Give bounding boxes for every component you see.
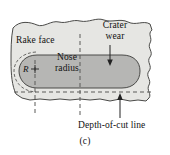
- crater-wear-figure: Rake face Craterwear Noseradius R Depth-…: [0, 0, 170, 155]
- label-radius-symbol: R: [23, 64, 29, 75]
- label-crater-wear: Craterwear: [92, 20, 138, 41]
- figure-drawing: [0, 0, 170, 155]
- label-nose-radius: Noseradius: [47, 52, 87, 73]
- label-depth-of-cut-line: Depth-of-cut line: [78, 120, 145, 131]
- label-nose-radius-line1: Nose: [57, 52, 77, 62]
- label-crater-wear-line1: Crater: [103, 20, 127, 30]
- label-nose-radius-line2: radius: [55, 63, 79, 73]
- label-crater-wear-line2: wear: [106, 31, 125, 41]
- figure-caption: (c): [0, 136, 170, 147]
- label-rake-face: Rake face: [16, 35, 55, 46]
